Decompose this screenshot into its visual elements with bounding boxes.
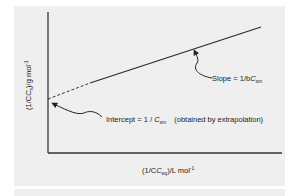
intercept-arrow-icon xyxy=(54,104,102,117)
y-axis-label: (1/CCs)/g mol-1 xyxy=(23,60,34,110)
extrapolation-line xyxy=(48,83,90,99)
x-axis-label: (1/CCeq)/L mol-1 xyxy=(142,165,194,176)
slope-arrow-icon xyxy=(195,52,212,78)
intercept-label: Intercept = 1 / Csm(obtained by extrapol… xyxy=(106,115,264,125)
slope-label: Slope = 1/bCsm xyxy=(212,74,262,84)
isotherm-plot: Slope = 1/bCsm Intercept = 1 / Csm(obtai… xyxy=(0,0,295,196)
